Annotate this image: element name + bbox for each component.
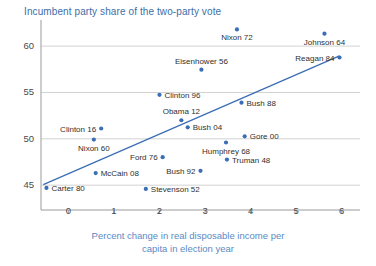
point-label-gore-00: Gore 00 bbox=[250, 132, 279, 141]
x-tick-3: 3 bbox=[195, 205, 215, 216]
x-tick-0: 0 bbox=[58, 205, 78, 216]
point-label-nixon-72: Nixon 72 bbox=[221, 33, 253, 42]
point-label-nixon-60: Nixon 60 bbox=[78, 144, 110, 153]
scatter-chart: Incumbent party share of the two-party v… bbox=[0, 0, 376, 266]
point-label-truman-48: Truman 48 bbox=[232, 155, 270, 164]
point-label-eisenhower-56: Eisenhower 56 bbox=[175, 57, 228, 66]
x-axis-title-line2: capita in election year bbox=[0, 242, 376, 255]
point-label-ford-76: Ford 76 bbox=[130, 153, 158, 162]
point-label-bush-92: Bush 92 bbox=[166, 166, 195, 175]
plot-area: 45505560 0123456 Nixon 72Johnson 64Reaga… bbox=[0, 0, 376, 266]
point-label-bush-04: Bush 04 bbox=[193, 123, 222, 132]
y-tick-45: 45 bbox=[8, 179, 34, 190]
y-tick-60: 60 bbox=[8, 40, 34, 51]
point-label-mccain-08: McCain 08 bbox=[101, 169, 139, 178]
point-label-carter-80: Carter 80 bbox=[51, 183, 84, 192]
point-label-stevenson-52: Stevenson 52 bbox=[151, 184, 200, 193]
x-axis-title: Percent change in real disposable income… bbox=[0, 229, 376, 255]
x-tick-4: 4 bbox=[241, 205, 261, 216]
x-axis-title-line1: Percent change in real disposable income… bbox=[0, 229, 376, 242]
x-tick-5: 5 bbox=[286, 205, 306, 216]
point-label-clinton-96: Clinton 96 bbox=[164, 90, 200, 99]
point-label-johnson-64: Johnson 64 bbox=[304, 38, 345, 47]
point-label-bush-88: Bush 88 bbox=[247, 98, 276, 107]
x-tick-1: 1 bbox=[104, 205, 124, 216]
point-label-reagan-84: Reagan 84 bbox=[295, 53, 334, 62]
axis-lines bbox=[41, 20, 360, 210]
y-tick-50: 50 bbox=[8, 133, 34, 144]
point-label-obama-12: Obama 12 bbox=[163, 107, 200, 116]
x-tick-6: 6 bbox=[332, 205, 352, 216]
y-tick-55: 55 bbox=[8, 86, 34, 97]
point-label-clinton-16: Clinton 16 bbox=[60, 124, 96, 133]
x-tick-2: 2 bbox=[149, 205, 169, 216]
